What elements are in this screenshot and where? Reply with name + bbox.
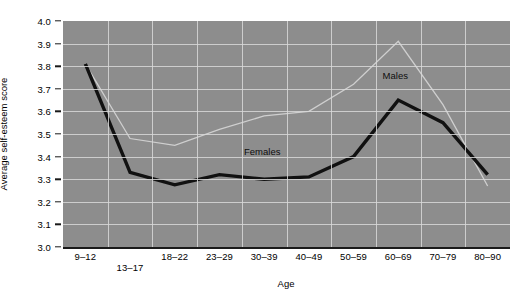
gridline-vertical <box>331 21 332 247</box>
y-tick-label: 3.5 <box>37 129 51 140</box>
y-tick-label: 3.4 <box>37 151 51 162</box>
gridline-vertical <box>421 21 422 247</box>
y-tick-label: 3.6 <box>37 106 51 117</box>
y-tick-mark <box>55 20 61 21</box>
x-tick-label: 18–22 <box>161 251 188 262</box>
y-tick-mark <box>55 156 61 157</box>
series-annotation-males: Males <box>383 70 408 81</box>
gridline-vertical <box>242 21 243 247</box>
y-axis-title: Average self-esteem score <box>0 78 9 191</box>
x-tick-label: 9–12 <box>75 251 97 262</box>
gridline-vertical <box>287 21 288 247</box>
x-tick-label: 30–39 <box>251 251 278 262</box>
gridline-vertical <box>376 21 377 247</box>
x-tick-label: 60–69 <box>385 251 412 262</box>
y-tick-label: 3.9 <box>37 38 51 49</box>
y-tick-mark <box>55 43 61 44</box>
x-tick-label: 80–90 <box>474 251 501 262</box>
y-tick-mark <box>55 133 61 134</box>
gridline-vertical <box>152 21 153 247</box>
y-tick-mark <box>55 111 61 112</box>
plot-area <box>63 21 510 247</box>
x-axis-title: Age <box>278 278 295 289</box>
y-tick-label: 3.7 <box>37 83 51 94</box>
x-tick-label: 50–59 <box>340 251 367 262</box>
y-tick-label: 3.3 <box>37 174 51 185</box>
x-tick-label: 23–29 <box>206 251 233 262</box>
y-tick-mark <box>55 178 61 179</box>
y-tick-mark <box>55 201 61 202</box>
gridline-vertical <box>197 21 198 247</box>
y-tick-mark <box>55 224 61 225</box>
x-axis-line <box>63 247 510 249</box>
y-tick-mark <box>55 88 61 89</box>
y-tick-label: 3.1 <box>37 219 51 230</box>
series-annotation-females: Females <box>244 146 280 157</box>
y-tick-label: 4.0 <box>37 16 51 27</box>
x-axis: Age 9–1213–1718–2223–2930–3940–4950–5960… <box>0 247 529 298</box>
y-tick-mark <box>55 65 61 66</box>
chart-figure: Average self-esteem score 4.03.93.83.73.… <box>0 0 529 298</box>
x-tick-label: 40–49 <box>295 251 322 262</box>
y-tick-label: 3.8 <box>37 61 51 72</box>
x-tick-label: 70–79 <box>429 251 456 262</box>
gridline-vertical <box>465 21 466 247</box>
y-tick-label: 3.2 <box>37 196 51 207</box>
x-tick-label: 13–17 <box>117 262 144 273</box>
gridline-vertical <box>108 21 109 247</box>
